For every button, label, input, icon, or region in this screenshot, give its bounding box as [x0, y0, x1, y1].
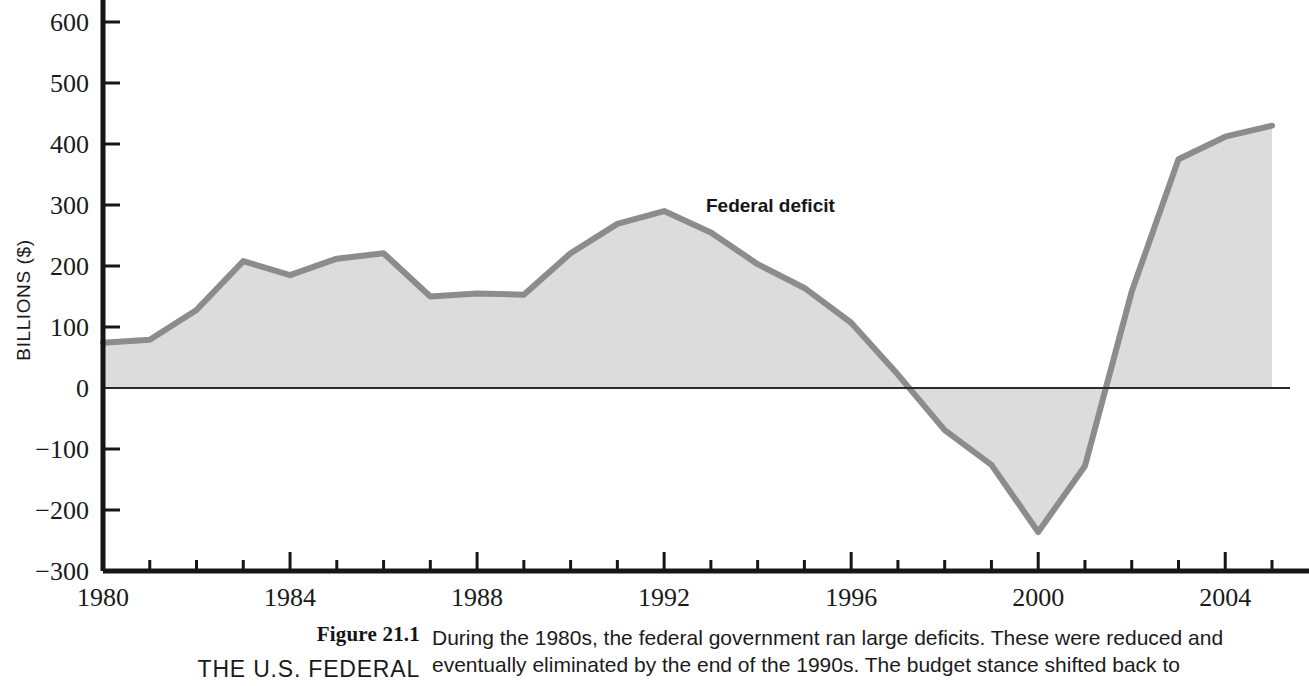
y-axis-tick-labels: 6005004003002001000−100−200−300 — [35, 8, 89, 586]
figure-caption-text: During the 1980s, the federal government… — [432, 624, 1292, 678]
caption-line: During the 1980s, the federal government… — [432, 624, 1292, 651]
y-axis-tick-label: 300 — [50, 191, 89, 220]
federal-deficit-area-chart: 6005004003002001000−100−200−300 19801984… — [0, 0, 1309, 612]
chart-canvas: 6005004003002001000−100−200−300 19801984… — [0, 0, 1309, 612]
x-axis-tick-label: 1980 — [77, 583, 129, 612]
x-axis-tick-label: 1988 — [451, 583, 503, 612]
series-annotation-federal-deficit: Federal deficit — [706, 195, 835, 216]
figure-title: THE U.S. FEDERAL — [150, 656, 420, 683]
plot-area — [103, 126, 1272, 532]
y-axis-ticks — [103, 22, 120, 571]
x-axis-tick-labels: 1980198419881992199620002004 — [77, 583, 1251, 612]
y-axis-tick-label: 0 — [76, 374, 89, 403]
y-axis-tick-label: 100 — [50, 313, 89, 342]
y-axis-tick-label: 200 — [50, 252, 89, 281]
y-axis-tick-label: 500 — [50, 69, 89, 98]
y-axis-tick-label: −200 — [35, 496, 89, 525]
y-axis-tick-label: 400 — [50, 130, 89, 159]
y-axis-tick-label: −300 — [35, 557, 89, 586]
y-axis-title: BILLIONS ($) — [13, 239, 34, 360]
x-axis-tick-label: 2004 — [1199, 583, 1251, 612]
y-axis-tick-label: 600 — [50, 8, 89, 37]
x-axis-tick-label: 1996 — [825, 583, 877, 612]
caption-line: eventually eliminated by the end of the … — [432, 651, 1292, 678]
figure-caption-block: Figure 21.1 THE U.S. FEDERAL During the … — [0, 612, 1309, 686]
figure-label-column: Figure 21.1 THE U.S. FEDERAL — [150, 622, 420, 683]
x-axis-tick-label: 2000 — [1012, 583, 1064, 612]
x-axis-tick-label: 1984 — [264, 583, 316, 612]
figure-number: Figure 21.1 — [150, 622, 420, 647]
x-axis-ticks — [150, 552, 1272, 571]
x-axis-tick-label: 1992 — [638, 583, 690, 612]
y-axis-tick-label: −100 — [35, 435, 89, 464]
figure-page: 6005004003002001000−100−200−300 19801984… — [0, 0, 1309, 686]
deficit-area-fill — [103, 126, 1272, 532]
